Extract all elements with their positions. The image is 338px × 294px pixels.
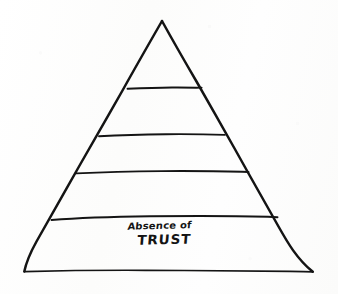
pyramid-sketch (0, 0, 338, 294)
pyramid-left-edge (24, 21, 162, 272)
pyramid-divider-3 (77, 171, 249, 173)
pyramid-diagram-canvas: Absence of TRUST (0, 0, 338, 294)
pyramid-right-edge (162, 21, 313, 272)
pyramid-divider-4 (52, 216, 278, 220)
pyramid-divider-1 (128, 87, 202, 88)
pyramid-divider-2 (99, 134, 225, 136)
pyramid-base-line (24, 270, 313, 272)
